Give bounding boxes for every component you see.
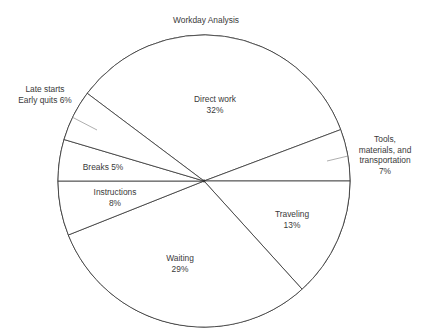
slice-label: Tools,materials, andtransportation7% bbox=[359, 134, 412, 176]
slice-label: Breaks 5% bbox=[83, 162, 124, 172]
pie-center-dot bbox=[203, 180, 206, 183]
slice-label: Late startsEarly quits 6% bbox=[18, 84, 72, 105]
pie-chart: Workday Analysis Direct work32%Tools,mat… bbox=[0, 0, 429, 332]
chart-title: Workday Analysis bbox=[173, 15, 239, 25]
